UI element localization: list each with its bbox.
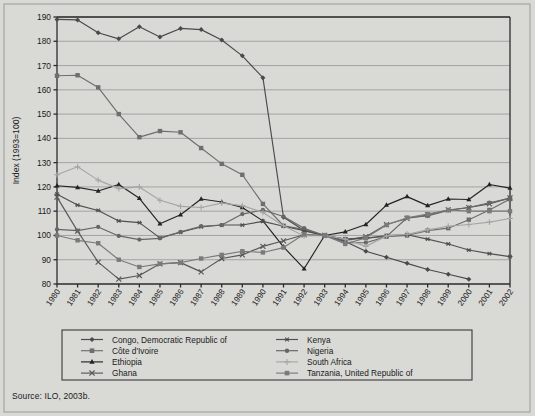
data-point-marker: [137, 135, 141, 139]
y-tick-label: 150: [37, 109, 51, 119]
data-point-marker: [158, 129, 162, 133]
data-point-marker: [75, 228, 79, 232]
data-point-marker: [158, 236, 162, 240]
data-point-marker: [446, 208, 450, 212]
y-tick-label: 140: [37, 133, 51, 143]
data-point-marker: [178, 130, 182, 134]
data-point-marker: [281, 214, 285, 218]
legend-label: Ghana: [112, 368, 137, 378]
legend-label: Congo, Democratic Republic of: [112, 335, 228, 345]
data-point-marker: [199, 224, 203, 228]
source-note: Source: ILO, 2003b.: [12, 391, 90, 401]
y-tick-label: 100: [37, 230, 51, 240]
data-point-marker: [281, 245, 285, 249]
y-tick-label: 180: [37, 36, 51, 46]
data-point-marker: [508, 209, 512, 213]
y-tick-label: 80: [42, 279, 52, 289]
data-point-marker: [240, 212, 244, 216]
line-chart: 8090100110120130140150160170180190 19801…: [0, 0, 535, 416]
data-point-marker: [55, 74, 59, 78]
data-point-marker: [90, 348, 95, 353]
data-point-marker: [137, 265, 141, 269]
data-point-marker: [508, 196, 512, 200]
data-point-marker: [220, 223, 224, 227]
data-point-marker: [55, 227, 59, 231]
data-point-marker: [425, 212, 429, 216]
data-point-marker: [137, 237, 141, 241]
data-point-marker: [384, 223, 388, 227]
data-point-marker: [75, 73, 79, 77]
data-point-marker: [96, 225, 100, 229]
legend-label: Nigeria: [307, 346, 334, 356]
data-point-marker: [96, 241, 100, 245]
y-tick-label: 170: [37, 61, 51, 71]
data-point-marker: [199, 146, 203, 150]
data-point-marker: [117, 234, 121, 238]
data-point-marker: [158, 262, 162, 266]
data-point-marker: [285, 348, 289, 352]
data-point-marker: [467, 209, 471, 213]
data-point-marker: [405, 216, 409, 220]
data-point-marker: [302, 226, 306, 230]
y-tick-label: 120: [37, 182, 51, 192]
legend-label: Ethiopia: [112, 357, 142, 367]
data-point-marker: [240, 173, 244, 177]
data-point-marker: [261, 202, 265, 206]
data-point-marker: [261, 250, 265, 254]
legend-label: Tanzania, United Republic of: [307, 368, 413, 378]
data-point-marker: [199, 256, 203, 260]
data-point-marker: [178, 230, 182, 234]
data-point-marker: [343, 242, 347, 246]
legend-label: South Africa: [307, 357, 352, 367]
legend-label: Kenya: [307, 335, 331, 345]
y-tick-label: 90: [42, 255, 52, 265]
legend-label: Côte d'Ivoire: [112, 346, 159, 356]
y-axis-label: Index (1993=100): [11, 117, 21, 185]
data-point-marker: [487, 209, 491, 213]
figure-container: 8090100110120130140150160170180190 19801…: [0, 0, 535, 416]
chart-legend: Congo, Democratic Republic ofCôte d'Ivoi…: [62, 330, 472, 380]
data-point-marker: [487, 201, 491, 205]
y-tick-label: 130: [37, 158, 51, 168]
data-point-marker: [285, 371, 290, 376]
data-point-marker: [96, 85, 100, 89]
data-point-marker: [240, 249, 244, 253]
data-point-marker: [467, 217, 471, 221]
y-tick-label: 160: [37, 85, 51, 95]
data-point-marker: [302, 232, 306, 236]
y-tick-label: 110: [38, 206, 52, 216]
data-point-marker: [55, 233, 59, 237]
data-point-marker: [220, 253, 224, 257]
data-point-marker: [117, 258, 121, 262]
data-point-marker: [117, 112, 121, 116]
data-point-marker: [178, 260, 182, 264]
data-point-marker: [364, 236, 368, 240]
data-point-marker: [75, 238, 79, 242]
data-point-marker: [322, 233, 326, 237]
data-point-marker: [220, 162, 224, 166]
y-tick-label: 190: [37, 12, 51, 22]
